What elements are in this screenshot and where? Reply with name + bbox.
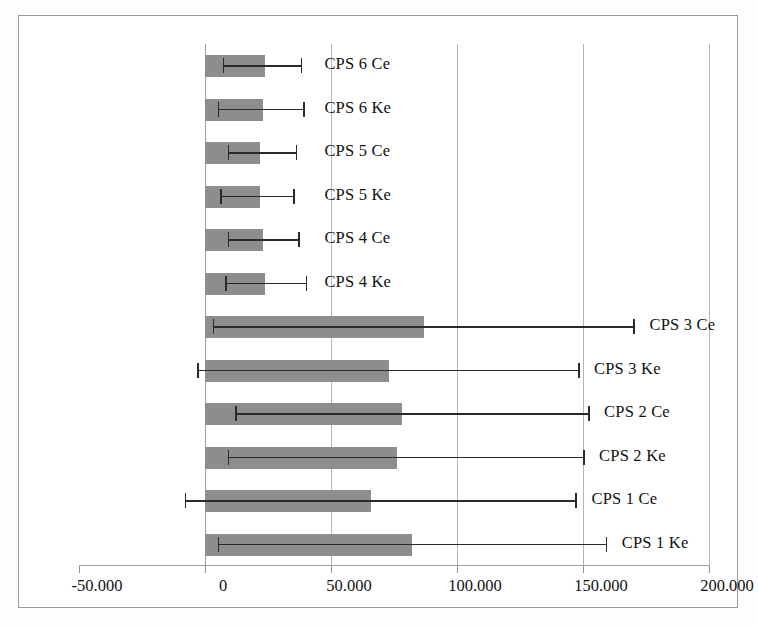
error-bar-line (185, 500, 576, 502)
error-bar-cap-low (228, 232, 230, 247)
error-bar-cap-low (220, 189, 222, 204)
bar-row: CPS 1 Ce (79, 479, 709, 523)
error-bar-cap-high (578, 363, 580, 378)
error-bar-line (228, 457, 583, 459)
bar-label: CPS 1 Ce (592, 489, 658, 509)
x-tick (709, 566, 710, 573)
x-tick-label: 0 (219, 576, 227, 596)
x-tick-label: 50.000 (326, 576, 371, 596)
error-bar-cap-low (235, 406, 237, 421)
bar-label: CPS 6 Ce (324, 54, 390, 74)
error-bar-cap-low (197, 363, 199, 378)
bar-row: CPS 4 Ce (79, 218, 709, 262)
error-bar-cap-low (218, 537, 220, 552)
x-tick (79, 566, 80, 573)
error-bar-cap-high (633, 319, 635, 334)
bar-label: CPS 4 Ke (324, 272, 391, 292)
error-bar-cap-high (588, 406, 590, 421)
error-bar-cap-low (218, 102, 220, 117)
bar-row: CPS 5 Ke (79, 175, 709, 219)
bar-row: CPS 2 Ce (79, 392, 709, 436)
chart-frame: CPS 6 CeCPS 6 KeCPS 5 CeCPS 5 KeCPS 4 Ce… (18, 15, 738, 608)
bar-row: CPS 2 Ke (79, 436, 709, 480)
bar-label: CPS 1 Ke (622, 533, 689, 553)
x-tick (583, 566, 584, 573)
error-bar-cap-low (223, 58, 225, 73)
error-bar-cap-high (296, 145, 298, 160)
error-bar-cap-high (606, 537, 608, 552)
error-bar-line (228, 152, 296, 154)
error-bar-cap-low (213, 319, 215, 334)
plot-area: CPS 6 CeCPS 6 KeCPS 5 CeCPS 5 KeCPS 4 Ce… (79, 44, 709, 566)
error-bar-line (218, 544, 606, 546)
x-tick-label: -50.000 (72, 576, 123, 596)
bar-row: CPS 3 Ke (79, 349, 709, 393)
bar-label: CPS 5 Ce (324, 141, 390, 161)
error-bar-line (213, 326, 634, 328)
error-bar-cap-high (583, 450, 585, 465)
error-bar-cap-low (228, 145, 230, 160)
error-bar-line (220, 196, 293, 198)
bar-label: CPS 2 Ke (599, 446, 666, 466)
error-bar-cap-low (225, 276, 227, 291)
error-bar-cap-high (303, 102, 305, 117)
bar-row: CPS 3 Ce (79, 305, 709, 349)
x-tick-label: 200.000 (700, 576, 754, 596)
bar-row: CPS 4 Ke (79, 262, 709, 306)
bar-label: CPS 3 Ke (594, 359, 661, 379)
error-bar-line (228, 239, 299, 241)
error-bar-line (197, 370, 578, 372)
bar-label: CPS 6 Ke (324, 98, 391, 118)
x-tick (331, 566, 332, 573)
gridline (709, 44, 710, 566)
error-bar-cap-low (185, 493, 187, 508)
error-bar-cap-high (575, 493, 577, 508)
error-bar-cap-high (306, 276, 308, 291)
x-tick (457, 566, 458, 573)
error-bar-line (218, 109, 304, 111)
error-bar-cap-low (228, 450, 230, 465)
bar-row: CPS 1 Ke (79, 523, 709, 567)
error-bar-cap-high (298, 232, 300, 247)
error-bar-line (223, 65, 301, 67)
x-tick-label: 100.000 (448, 576, 502, 596)
error-bar-line (225, 283, 306, 285)
error-bar-cap-high (293, 189, 295, 204)
error-bar-cap-high (301, 58, 303, 73)
error-bar-line (235, 413, 588, 415)
bar-label: CPS 4 Ce (324, 228, 390, 248)
bar-row: CPS 6 Ce (79, 44, 709, 88)
bar-label: CPS 3 Ce (649, 315, 715, 335)
x-tick-label: 150.000 (574, 576, 628, 596)
bar-label: CPS 2 Ce (604, 402, 670, 422)
bar-row: CPS 5 Ce (79, 131, 709, 175)
x-tick (205, 566, 206, 573)
bar-row: CPS 6 Ke (79, 88, 709, 132)
bar-label: CPS 5 Ke (324, 185, 391, 205)
